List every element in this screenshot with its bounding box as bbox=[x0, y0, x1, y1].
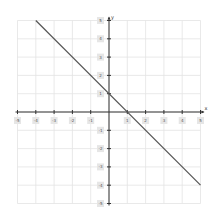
y-tick-label: 1 bbox=[99, 91, 102, 96]
y-tick-label: 2 bbox=[99, 73, 102, 78]
x-tick-label: 3 bbox=[163, 118, 166, 123]
y-tick-label: -3 bbox=[99, 164, 103, 169]
x-tick-label: -2 bbox=[70, 118, 74, 123]
coordinate-plane: xy-5-4-3-2-11234554321-1-2-3-4-5 bbox=[0, 0, 216, 221]
y-tick-label: -1 bbox=[99, 128, 103, 133]
x-axis-label: x bbox=[205, 105, 208, 111]
y-tick-label: 3 bbox=[99, 55, 102, 60]
y-tick-label: 5 bbox=[99, 18, 102, 23]
x-tick-label: 1 bbox=[126, 118, 129, 123]
y-tick-label: -2 bbox=[99, 146, 103, 151]
x-tick-label: -5 bbox=[16, 118, 20, 123]
x-tick-label: -1 bbox=[89, 118, 93, 123]
y-tick-label: -4 bbox=[99, 183, 103, 188]
y-tick-label: -5 bbox=[99, 201, 103, 206]
data-line bbox=[36, 21, 201, 186]
y-axis-label: y bbox=[111, 14, 114, 21]
x-tick-label: 5 bbox=[199, 118, 202, 123]
x-tick-label: -4 bbox=[34, 118, 38, 123]
x-tick-label: 4 bbox=[181, 118, 184, 123]
x-tick-label: -3 bbox=[52, 118, 56, 123]
y-tick-label: 4 bbox=[99, 36, 102, 41]
